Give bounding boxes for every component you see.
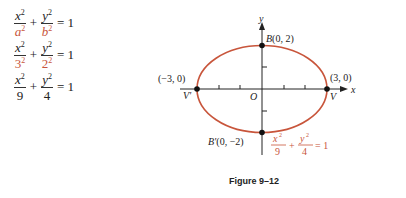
label-b: B(0, 2)	[266, 33, 294, 45]
y-axis-label: y	[258, 13, 264, 24]
x-axis-label: x	[350, 84, 356, 95]
figure-caption: Figure 9–12	[229, 176, 279, 186]
point-b	[259, 43, 265, 49]
svg-text:+: +	[289, 140, 295, 151]
svg-text:= 1: = 1	[315, 140, 328, 151]
svg-text:9: 9	[275, 146, 280, 157]
svg-text:y: y	[299, 133, 305, 144]
point-v-prime	[194, 86, 200, 92]
label-v-coords: (3, 0)	[330, 72, 352, 84]
ellipse-figure: y x O B(0, 2) (3, 0) V (−3, 0) V′ B′(0, …	[0, 0, 406, 198]
label-v: V	[330, 91, 338, 102]
point-v	[324, 86, 330, 92]
svg-text:2: 2	[279, 132, 282, 138]
point-b-prime	[259, 130, 265, 136]
origin-label: O	[250, 91, 257, 102]
svg-text:2: 2	[306, 132, 309, 138]
svg-text:4: 4	[302, 146, 307, 157]
x-axis-arrow-icon	[340, 86, 348, 92]
label-v-prime: V′	[183, 90, 192, 101]
label-v-prime-coords: (−3, 0)	[158, 73, 185, 85]
svg-text:x: x	[272, 133, 278, 144]
curve-equation: x 2 9 + y 2 4 = 1	[271, 132, 328, 157]
label-b-prime: B′(0, −2)	[208, 136, 244, 148]
